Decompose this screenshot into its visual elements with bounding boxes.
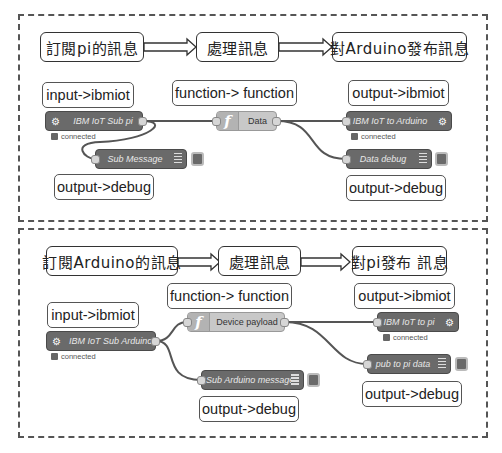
stage-process: 處理訊息 xyxy=(196,32,279,62)
gear-icon: ⚙ xyxy=(46,112,64,130)
stage-subscribe-arduino: 訂閱Arduino的訊息 xyxy=(46,246,178,276)
gear-icon: ⚙ xyxy=(433,112,451,130)
output-port[interactable] xyxy=(272,117,281,126)
debug-toggle-button[interactable] xyxy=(455,357,468,371)
status-connected: connected xyxy=(51,132,96,141)
list-icon xyxy=(419,153,427,165)
output-port[interactable] xyxy=(280,318,289,327)
gear-icon: ⚙ xyxy=(440,313,458,331)
status-connected: connected xyxy=(51,352,96,361)
debug-toggle-button[interactable] xyxy=(191,152,204,166)
stage-publish-arduino: 對Arduino發布訊息 xyxy=(332,32,467,62)
callout-output-debug: output->debug xyxy=(346,175,446,201)
status-connected: connected xyxy=(351,132,396,141)
callout-output-ibmiot: output->ibmiot xyxy=(348,80,449,106)
input-port[interactable] xyxy=(342,155,351,164)
status-connected: connected xyxy=(383,333,428,342)
callout-function: function-> function xyxy=(172,80,297,106)
input-port[interactable] xyxy=(212,117,221,126)
node-ibm-iot-to-pi[interactable]: IBM IoT to pi ⚙ xyxy=(377,312,459,332)
gear-icon: ⚙ xyxy=(47,332,65,350)
list-icon xyxy=(174,153,182,165)
input-port[interactable] xyxy=(183,318,192,327)
callout-input-ibmiot: input->ibmiot xyxy=(47,302,139,328)
callout-output-debug: output->debug xyxy=(199,396,299,422)
node-function-device-payload[interactable]: f Device payload xyxy=(187,312,285,332)
input-port[interactable] xyxy=(197,376,206,385)
node-debug-sub-arduino-message[interactable]: Sub Arduino message xyxy=(201,370,304,390)
callout-output-debug: output->debug xyxy=(54,174,154,200)
callout-output-debug: output->debug xyxy=(362,381,462,407)
callout-function: function-> function xyxy=(167,283,292,309)
node-ibm-iot-sub-arduino[interactable]: ⚙ IBM IoT Sub Arduino xyxy=(46,331,156,351)
debug-toggle-button[interactable] xyxy=(307,373,320,387)
list-icon xyxy=(291,374,299,386)
output-port[interactable] xyxy=(151,337,160,346)
node-ibm-iot-to-arduino[interactable]: IBM IoT to Arduino ⚙ xyxy=(346,111,452,131)
node-debug-sub-message[interactable]: Sub Message xyxy=(95,149,187,169)
stage-subscribe-pi: 訂閱pi的訊息 xyxy=(40,32,144,62)
output-port[interactable] xyxy=(138,117,147,126)
input-port[interactable] xyxy=(91,155,100,164)
callout-output-ibmiot: output->ibmiot xyxy=(354,283,455,309)
callout-input-ibmiot: input->ibmiot xyxy=(42,82,134,108)
node-ibm-iot-sub-pi[interactable]: ⚙ IBM IoT Sub pi xyxy=(45,111,143,131)
input-port[interactable] xyxy=(363,360,372,369)
list-icon xyxy=(438,358,446,370)
stage-process: 處理訊息 xyxy=(218,246,301,276)
node-debug-pub-to-pi-data[interactable]: pub to pi data xyxy=(367,354,451,374)
node-debug-data[interactable]: Data debug xyxy=(346,149,432,169)
input-port[interactable] xyxy=(373,318,382,327)
debug-toggle-button[interactable] xyxy=(435,152,448,166)
node-function-data[interactable]: f Data xyxy=(216,111,277,131)
input-port[interactable] xyxy=(342,117,351,126)
stage-publish-pi: 對pi發布 訊息 xyxy=(352,246,447,276)
